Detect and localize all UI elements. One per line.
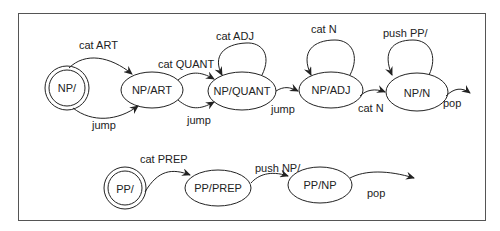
node-np-start: NP/	[45, 66, 89, 110]
arc-pop-np	[446, 89, 470, 96]
node-label: NP/N	[404, 87, 430, 99]
arc-label-pop-pp: pop	[367, 187, 385, 199]
arc-label-push-np: push NP/	[255, 162, 301, 174]
arc-label-cat-quant: cat QUANT	[158, 58, 215, 70]
node-label: PP/NP	[303, 179, 336, 191]
arc-label-jump-1: jump	[91, 119, 116, 131]
arc-cat-quant	[178, 73, 214, 80]
arc-cat-n	[360, 90, 385, 96]
node-np-n: NP/N	[386, 73, 448, 111]
arc-cat-n-loop	[307, 40, 354, 75]
node-pp-prep: PP/PREP	[185, 170, 251, 206]
arc-label-jump-2: jump	[186, 114, 211, 126]
arc-jump-1	[73, 106, 138, 118]
arc-label-push-pp: push PP/	[383, 27, 429, 39]
node-label: NP/ADJ	[311, 84, 350, 96]
arc-cat-art	[69, 58, 132, 74]
arc-label-cat-art: cat ART	[79, 39, 118, 51]
arc-jump-3	[276, 88, 298, 91]
atn-diagram: NP/ NP/ART NP/QUANT NP/ADJ NP/N cat ART …	[0, 0, 500, 231]
node-pp-start: PP/	[104, 167, 146, 209]
node-label: NP/ART	[132, 84, 172, 96]
node-np-art: NP/ART	[121, 72, 183, 108]
node-label: PP/	[116, 183, 135, 195]
node-np-quant: NP/QUANT	[208, 72, 276, 110]
arc-cat-adj-loop	[218, 43, 266, 75]
arc-label-cat-n-loop: cat N	[311, 23, 337, 35]
node-label: PP/PREP	[194, 182, 242, 194]
node-label: NP/	[58, 82, 77, 94]
arc-cat-prep	[145, 171, 190, 192]
arc-push-np	[251, 173, 288, 183]
arc-pop-pp	[350, 172, 414, 178]
node-np-adj: NP/ADJ	[299, 72, 363, 108]
arc-push-pp-loop	[388, 40, 433, 75]
arc-jump-2	[178, 100, 214, 108]
arc-label-cat-prep: cat PREP	[140, 153, 188, 165]
node-label: NP/QUANT	[214, 85, 271, 97]
arc-label-cat-adj: cat ADJ	[216, 30, 254, 42]
arc-label-jump-3: jump	[270, 103, 295, 115]
arc-label-pop-np: pop	[443, 97, 461, 109]
arc-label-cat-n: cat N	[358, 102, 384, 114]
